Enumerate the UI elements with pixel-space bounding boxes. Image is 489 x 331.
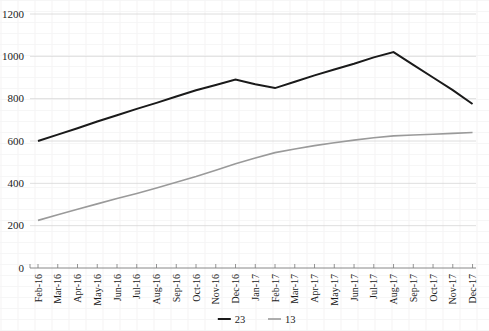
x-axis-tick-label: Jul-16 — [131, 274, 142, 299]
y-axis: 020040060080010001200 — [2, 8, 25, 274]
chart-legend: 2313 — [218, 314, 296, 325]
series-line-23 — [38, 52, 473, 141]
x-axis-tick-label: Jul-17 — [368, 274, 379, 299]
series-line-13 — [38, 133, 473, 221]
y-axis-tick-label: 1000 — [2, 50, 25, 62]
x-axis-tick-label: Sep-16 — [171, 274, 182, 302]
x-axis-tick-label: Feb-17 — [270, 274, 281, 302]
legend-label-23: 23 — [235, 314, 246, 325]
x-axis-tick-label: Dec-17 — [467, 274, 478, 303]
x-axis-tick-label: Jun-16 — [112, 274, 123, 301]
gridlines — [30, 14, 476, 226]
chart-canvas: 020040060080010001200 Feb-16Mar-16Apr-16… — [0, 0, 489, 331]
x-axis-tick-label: Apr-17 — [309, 274, 320, 303]
x-axis-tick-label: Apr-16 — [72, 274, 83, 303]
line-chart: 020040060080010001200 Feb-16Mar-16Apr-16… — [0, 0, 489, 331]
x-axis-tick-label: Sep-17 — [408, 274, 419, 302]
x-axis-tick-label: Aug-16 — [151, 274, 162, 305]
legend-label-13: 13 — [285, 314, 296, 325]
y-axis-tick-label: 400 — [8, 177, 25, 189]
series-lines — [38, 52, 473, 220]
x-axis-tick-label: Jun-17 — [349, 274, 360, 301]
x-axis-tick-label: Feb-16 — [33, 274, 44, 302]
y-axis-tick-label: 0 — [19, 262, 25, 274]
x-axis-tick-label: Nov-17 — [447, 274, 458, 305]
x-axis-tick-label: Jan-17 — [250, 274, 261, 301]
y-axis-tick-label: 800 — [8, 92, 25, 104]
x-axis-tick-label: Aug-17 — [388, 274, 399, 305]
x-axis-tick-label: Mar-17 — [289, 274, 300, 304]
x-axis-tick-label: Oct-16 — [191, 274, 202, 302]
x-axis-tick-label: Mar-16 — [52, 274, 63, 304]
x-axis: Feb-16Mar-16Apr-16May-16Jun-16Jul-16Aug-… — [30, 264, 478, 306]
x-axis-tick-label: May-17 — [329, 274, 340, 306]
y-axis-tick-label: 200 — [8, 219, 25, 231]
y-axis-tick-label: 600 — [8, 135, 25, 147]
x-axis-tick-label: May-16 — [92, 274, 103, 306]
x-axis-tick-label: Oct-17 — [428, 274, 439, 302]
x-axis-tick-label: Dec-16 — [230, 274, 241, 303]
y-axis-tick-label: 1200 — [2, 8, 25, 20]
x-axis-tick-label: Nov-16 — [210, 274, 221, 305]
